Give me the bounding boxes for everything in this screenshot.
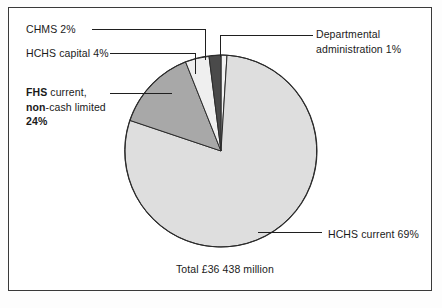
label-fhs-rest1: current, <box>47 86 86 98</box>
label-fhs-line3: 24% <box>26 114 106 129</box>
label-chms: CHMS 2% <box>26 22 76 37</box>
label-fhs-current: FHS current, non-cash limited 24% <box>26 85 106 129</box>
leader-line-departmental-horizontal <box>220 35 313 36</box>
label-hchs-capital-text: HCHS capital 4% <box>26 47 109 59</box>
leader-line-fhs-horizontal <box>110 93 172 94</box>
label-fhs-percent: 24% <box>26 115 47 127</box>
label-hchs-capital: HCHS capital 4% <box>26 46 109 61</box>
label-fhs-line1: FHS current, <box>26 85 106 100</box>
label-chms-text: CHMS 2% <box>26 23 76 35</box>
chart-screenshot: CHMS 2% HCHS capital 4% FHS current, non… <box>0 0 442 308</box>
label-departmental-line2: administration 1% <box>316 42 436 57</box>
label-hchs-current-text: HCHS current 69% <box>328 228 419 240</box>
chart-total-caption: Total £36 438 million <box>176 262 274 277</box>
leader-line-hchs-capital-vertical <box>195 53 196 74</box>
chart-total-text: Total £36 438 million <box>176 263 274 275</box>
leader-line-hchs-current-horizontal <box>258 232 322 233</box>
label-departmental-line1: Departmental <box>316 27 436 42</box>
leader-line-chms-horizontal <box>92 29 205 30</box>
label-fhs-line2: non-cash limited <box>26 100 106 115</box>
label-fhs-bold1: FHS <box>26 86 47 98</box>
label-fhs-rest2: -cash limited <box>46 101 106 113</box>
label-hchs-current: HCHS current 69% <box>328 227 419 242</box>
leader-line-hchs-capital-horizontal <box>110 53 195 54</box>
leader-line-departmental-vertical <box>220 35 221 57</box>
leader-line-chms-vertical <box>205 29 206 60</box>
label-departmental-administration: Departmental administration 1% <box>316 27 436 56</box>
label-fhs-bold2: non <box>26 101 46 113</box>
